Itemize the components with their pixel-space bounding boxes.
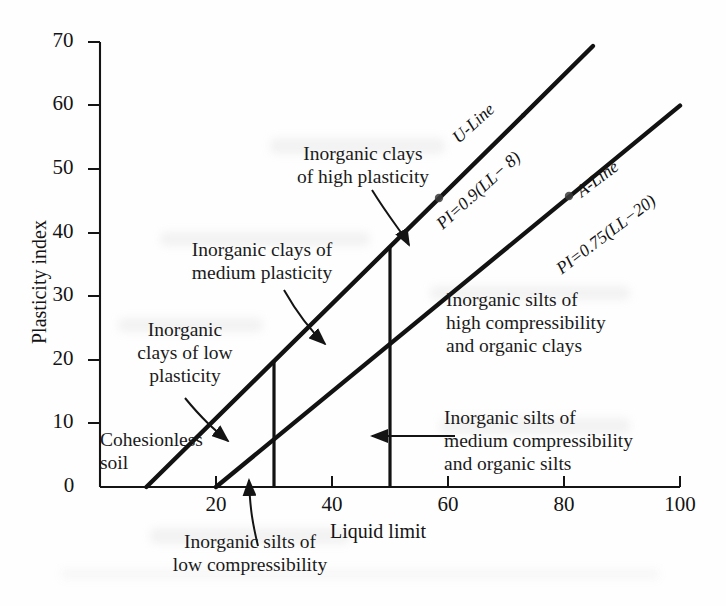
y-tick-label-10: 10: [44, 409, 82, 434]
annotation-clays-low: Inorganic clays of low plasticity: [116, 318, 254, 387]
x-tick-label-20: 20: [191, 492, 241, 517]
x-tick-label-40: 40: [307, 492, 357, 517]
plasticity-chart: 70 60 50 40 30 20 10 0 20 40 60 80 100 P…: [0, 0, 726, 606]
u-line-extension: [523, 46, 593, 115]
x-tick-label-60: 60: [423, 492, 473, 517]
y-tick-label-70: 70: [44, 28, 82, 53]
a-line-marker-dot: [565, 192, 573, 200]
annotation-silts-medium: Inorganic silts of medium compressibilit…: [444, 406, 706, 475]
y-tick-label-50: 50: [44, 155, 82, 180]
x-tick-label-80: 80: [539, 492, 589, 517]
annotation-silts-high: Inorganic silts of high compressibility …: [446, 288, 700, 357]
x-tick-marks: [216, 476, 680, 487]
y-tick-label-0: 0: [56, 473, 82, 498]
y-tick-label-60: 60: [44, 91, 82, 116]
x-tick-label-100: 100: [648, 492, 712, 517]
leader-arrow-clays-high: [372, 190, 409, 245]
annotation-clays-medium: Inorganic clays of medium plasticity: [162, 238, 362, 284]
y-tick-marks: [88, 42, 100, 423]
y-axis-title: Plasticity index: [28, 220, 51, 344]
annotation-cohesionless-soil: Cohesionless soil: [100, 428, 250, 474]
u-line-marker-dot: [435, 194, 443, 202]
annotation-clays-high: Inorganic clays of high plasticity: [274, 142, 452, 188]
annotation-silts-low: Inorganic silts of low compressibility: [128, 530, 372, 576]
y-tick-label-20: 20: [44, 346, 82, 371]
